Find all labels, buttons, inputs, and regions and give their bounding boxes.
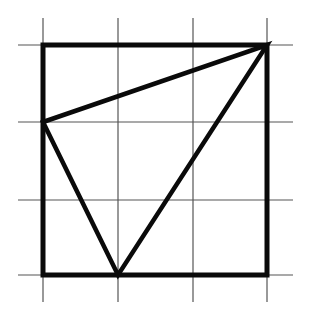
inscribed-triangle [43, 45, 267, 275]
geometry-figure [0, 0, 310, 327]
square-outline [43, 45, 267, 275]
